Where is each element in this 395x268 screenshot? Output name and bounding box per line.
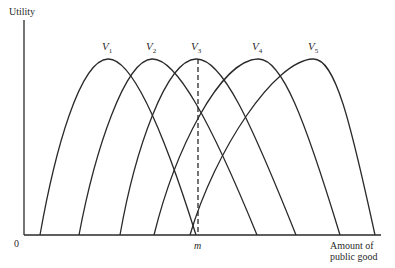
curve-label-v1: V1	[102, 40, 112, 55]
curve-label-v3: V3	[191, 40, 201, 55]
x-axis-label-line1: Amount of	[330, 240, 378, 251]
origin-label: 0	[14, 238, 19, 249]
curve-v1	[40, 59, 196, 235]
curve-label-v2: V2	[146, 40, 156, 55]
curve-label-v4: V4	[252, 40, 262, 55]
curve-v5	[190, 59, 375, 235]
x-axis-label-line2: public good	[330, 251, 378, 262]
y-axis-label: Utility	[9, 6, 35, 17]
median-label: m	[194, 240, 201, 251]
curve-v2	[79, 59, 257, 235]
curve-v3	[120, 59, 296, 235]
curve-v4	[154, 59, 340, 235]
x-axis-label: Amount of public good	[330, 240, 378, 262]
curve-label-v5: V5	[308, 40, 318, 55]
